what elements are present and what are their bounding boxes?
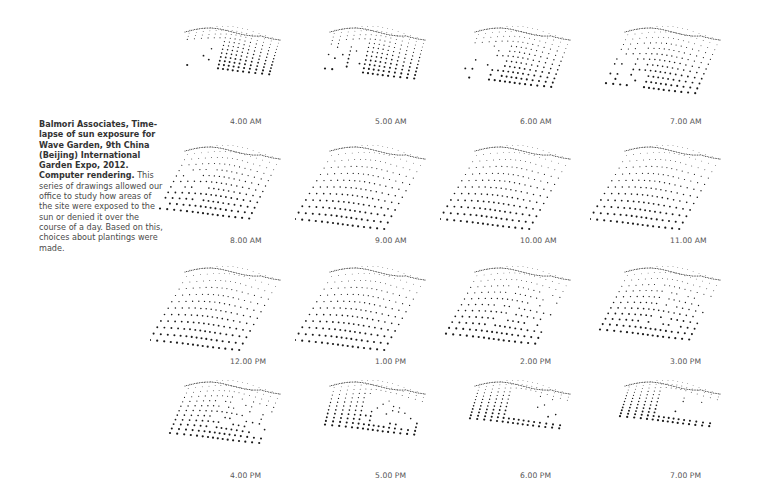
time-label: 11.00 AM — [670, 236, 707, 245]
time-label: 6.00 AM — [520, 117, 552, 126]
sun-exposure-wireframe — [590, 137, 740, 237]
time-label: 9.00 AM — [375, 236, 407, 245]
sun-exposure-wireframe — [150, 137, 300, 237]
rendering-panel: 8.00 AM — [150, 137, 300, 247]
sun-exposure-wireframe — [150, 18, 300, 118]
time-label: 4.00 PM — [230, 471, 261, 480]
sun-exposure-wireframe — [295, 258, 445, 358]
time-label: 1.00 PM — [375, 357, 406, 366]
time-label: 10.00 AM — [520, 236, 557, 245]
rendering-panel: 4.00 AM — [150, 18, 300, 128]
rendering-panel: 5.00 PM — [295, 372, 445, 482]
rendering-panel: 4.00 PM — [150, 372, 300, 482]
rendering-panel: 3.00 PM — [590, 258, 740, 368]
time-label: 8.00 AM — [230, 236, 262, 245]
time-label: 7.00 AM — [670, 117, 702, 126]
time-label: 4.00 AM — [230, 117, 262, 126]
sun-exposure-wireframe — [150, 372, 300, 472]
rendering-panel: 2.00 PM — [440, 258, 590, 368]
sun-exposure-wireframe — [590, 258, 740, 358]
sun-exposure-wireframe — [440, 18, 590, 118]
time-label: 7.00 PM — [670, 471, 701, 480]
sun-exposure-wireframe — [590, 18, 740, 118]
sun-exposure-wireframe — [295, 372, 445, 472]
rendering-panel: 7.00 PM — [590, 372, 740, 482]
sun-exposure-wireframe — [150, 258, 300, 358]
time-label: 5.00 AM — [375, 117, 407, 126]
time-label: 3.00 PM — [670, 357, 701, 366]
rendering-panel: 6.00 AM — [440, 18, 590, 128]
rendering-panel: 6.00 PM — [440, 372, 590, 482]
rendering-panel: 1.00 PM — [295, 258, 445, 368]
rendering-panel: 12.00 PM — [150, 258, 300, 368]
rendering-panel: 10.00 AM — [440, 137, 590, 247]
caption-body: This series of drawings allowed our offi… — [39, 170, 163, 252]
figure-caption: Balmori Associates, Time-lapse of sun ex… — [39, 119, 167, 253]
sun-exposure-wireframe — [440, 137, 590, 237]
rendering-panel: 9.00 AM — [295, 137, 445, 247]
time-label: 6.00 PM — [520, 471, 551, 480]
sun-exposure-wireframe — [295, 137, 445, 237]
sun-exposure-wireframe — [440, 372, 590, 472]
time-label: 5.00 PM — [375, 471, 406, 480]
time-label: 12.00 PM — [230, 357, 266, 366]
rendering-panel: 5.00 AM — [295, 18, 445, 128]
time-label: 2.00 PM — [520, 357, 551, 366]
sun-exposure-wireframe — [295, 18, 445, 118]
rendering-panel: 7.00 AM — [590, 18, 740, 128]
sun-exposure-wireframe — [440, 258, 590, 358]
rendering-panel: 11.00 AM — [590, 137, 740, 247]
sun-exposure-wireframe — [590, 372, 740, 472]
